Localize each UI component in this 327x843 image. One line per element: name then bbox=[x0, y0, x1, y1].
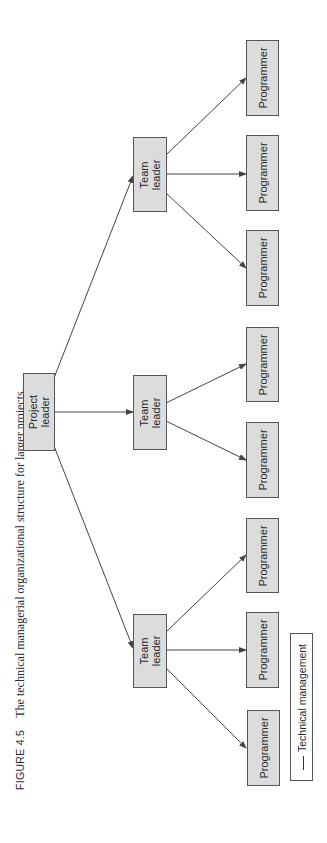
programmer-label: Programmer bbox=[257, 334, 269, 395]
programmer-box: Programmer bbox=[246, 40, 279, 116]
project-leader-box: Project leader bbox=[23, 373, 55, 451]
programmer-label: Programmer bbox=[257, 619, 269, 680]
legend-item: Technical management bbox=[296, 644, 308, 770]
team-leader-box-middle: Team leader bbox=[133, 375, 167, 450]
team-leader-box-right: Team leader bbox=[133, 137, 167, 212]
programmer-box: Programmer bbox=[246, 422, 279, 498]
team-leader-label: Team leader bbox=[138, 636, 162, 667]
programmer-box: Programmer bbox=[246, 518, 279, 593]
solid-line-swatch-icon bbox=[302, 756, 303, 770]
programmer-box: Programmer bbox=[246, 135, 279, 211]
programmer-label: Programmer bbox=[257, 429, 269, 490]
programmer-box: Programmer bbox=[247, 710, 280, 786]
legend-label: Technical management bbox=[296, 644, 308, 752]
programmer-label: Programmer bbox=[257, 525, 269, 586]
team-leader-label: Team leader bbox=[138, 159, 162, 190]
programmer-label: Programmer bbox=[258, 717, 270, 778]
programmer-box: Programmer bbox=[246, 230, 279, 306]
legend-box: Technical management bbox=[290, 633, 313, 781]
programmer-label: Programmer bbox=[257, 47, 269, 108]
programmer-box: Programmer bbox=[246, 612, 279, 688]
team-leader-label: Team leader bbox=[138, 397, 162, 428]
project-leader-label: Project leader bbox=[27, 395, 51, 429]
team-leader-box-left: Team leader bbox=[133, 614, 167, 688]
programmer-box: Programmer bbox=[246, 327, 279, 402]
programmer-label: Programmer bbox=[257, 237, 269, 298]
edge-pl-tl-right bbox=[54, 176, 133, 378]
programmer-label: Programmer bbox=[257, 142, 269, 203]
edge-pl-tl-left bbox=[54, 446, 133, 648]
